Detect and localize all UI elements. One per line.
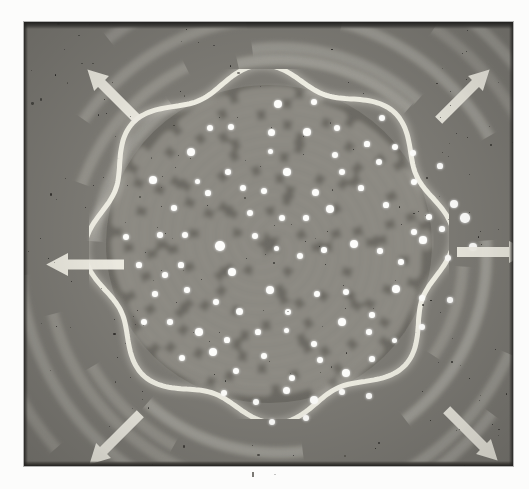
bright-marker — [369, 312, 374, 317]
bright-marker — [261, 353, 267, 359]
bright-marker — [255, 329, 261, 335]
bright-marker — [225, 169, 231, 175]
bright-marker — [398, 259, 404, 265]
bright-marker — [285, 309, 291, 315]
bright-marker — [460, 213, 469, 222]
bright-marker — [303, 215, 308, 220]
figure-page: outward flow NWoutward flow NEoutward fl… — [0, 0, 529, 489]
bright-marker — [419, 236, 426, 243]
bright-marker — [184, 287, 190, 293]
bright-marker — [383, 202, 389, 208]
bright-marker — [439, 226, 444, 231]
bright-marker — [149, 176, 157, 184]
bright-marker — [364, 141, 369, 146]
bright-marker — [213, 299, 219, 305]
outer-streak-field — [24, 22, 513, 466]
bright-marker — [303, 128, 311, 136]
plate-edge-top — [24, 22, 513, 29]
bright-marker — [274, 246, 279, 251]
plate-edge-left — [24, 22, 28, 466]
figure-caption — [0, 0, 1, 1]
bright-marker — [195, 179, 200, 184]
bright-marker — [303, 415, 309, 421]
bright-marker — [268, 129, 275, 136]
bright-marker — [136, 262, 142, 268]
bright-marker — [167, 319, 172, 324]
bright-marker — [366, 329, 372, 335]
bright-marker — [253, 399, 259, 405]
bright-marker — [358, 185, 364, 191]
plate-edge-right — [509, 22, 513, 466]
bright-marker — [447, 297, 453, 303]
bright-marker — [283, 387, 290, 394]
plate-edge-bottom — [24, 461, 513, 466]
paper-fleck — [252, 472, 254, 477]
bright-marker — [240, 185, 246, 191]
bright-marker — [392, 285, 400, 293]
bright-marker — [469, 243, 476, 250]
bright-marker — [233, 368, 239, 374]
bright-marker — [311, 341, 317, 347]
bright-marker — [215, 241, 225, 251]
bright-marker — [283, 168, 291, 176]
bright-marker — [450, 200, 458, 208]
bright-marker — [284, 328, 289, 333]
bright-marker — [321, 247, 326, 252]
bright-marker — [410, 150, 416, 156]
bright-marker — [366, 393, 372, 399]
bright-marker — [419, 295, 425, 301]
bright-marker — [178, 262, 183, 267]
bright-marker — [224, 337, 230, 343]
bright-marker — [279, 215, 285, 221]
bright-marker — [392, 338, 397, 343]
bright-marker — [209, 348, 217, 356]
bright-marker — [205, 190, 211, 196]
bright-marker — [141, 319, 147, 325]
bright-marker — [437, 163, 443, 169]
photographic-plate: outward flow NWoutward flow NEoutward fl… — [24, 22, 513, 466]
bright-marker — [228, 268, 236, 276]
bright-marker — [369, 356, 375, 362]
bright-marker — [411, 229, 417, 235]
bright-marker — [157, 232, 162, 237]
bright-marker — [314, 291, 320, 297]
bright-marker — [171, 205, 177, 211]
bright-marker — [426, 214, 432, 220]
bright-marker — [377, 248, 382, 253]
bright-marker — [195, 328, 203, 336]
bright-marker — [339, 169, 345, 175]
bright-marker — [162, 272, 167, 277]
figure-description: Grayscale halftone photograph of a rotat… — [0, 0, 1, 1]
bright-marker — [312, 189, 319, 196]
bright-marker — [152, 291, 158, 297]
bright-marker — [236, 308, 243, 315]
bright-marker — [187, 148, 195, 156]
